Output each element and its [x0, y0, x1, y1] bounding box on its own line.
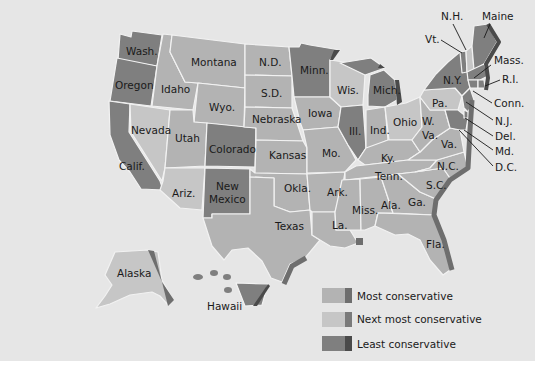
page-bottom-margin — [0, 361, 535, 376]
hawaii-islet-4 — [224, 287, 232, 293]
label-wva-1: W. — [422, 115, 435, 127]
label-maine: Maine — [482, 10, 514, 22]
hawaii-islet-2 — [210, 270, 218, 276]
label-iowa: Iowa — [308, 107, 333, 119]
label-ind: Ind. — [370, 124, 390, 136]
label-ala: Ala. — [381, 199, 401, 211]
label-sd: S.D. — [261, 87, 282, 99]
legend-swatch-least — [322, 336, 346, 351]
us-choropleth-map: Wash. Oregon Calif. Idaho Nevada Montana… — [0, 0, 535, 376]
label-pa: Pa. — [432, 97, 448, 109]
coast-shadow-miss — [356, 238, 363, 245]
label-utah: Utah — [175, 132, 200, 144]
label-vt: Vt. — [425, 33, 440, 45]
label-mo: Mo. — [322, 147, 341, 159]
label-conn: Conn. — [494, 97, 524, 109]
label-ky: Ky. — [381, 152, 395, 164]
label-new-mexico-1: New — [216, 180, 239, 192]
label-dc: D.C. — [495, 161, 517, 173]
label-del: Del. — [495, 130, 516, 142]
label-mich: Mich. — [373, 84, 401, 96]
label-wis: Wis. — [337, 84, 359, 96]
label-nebraska: Nebraska — [252, 113, 302, 125]
label-kansas: Kansas — [269, 149, 306, 161]
legend: Most conservative Next most conservative… — [322, 288, 482, 351]
label-miss: Miss. — [352, 204, 378, 216]
state-alaska — [96, 250, 172, 308]
label-nevada: Nevada — [131, 124, 171, 136]
label-ark: Ark. — [327, 186, 348, 198]
label-mass: Mass. — [494, 54, 524, 66]
label-colorado: Colorado — [209, 143, 256, 155]
label-calif: Calif. — [119, 160, 145, 172]
label-wva-2: Va. — [422, 129, 438, 141]
label-ill: Ill. — [349, 125, 361, 137]
state-ri — [478, 80, 485, 88]
legend-swatch-most-shadow — [345, 288, 352, 303]
label-tenn: Tenn. — [374, 170, 403, 182]
label-hawaii: Hawaii — [207, 300, 242, 312]
label-wyo: Wyo. — [209, 101, 235, 113]
label-ga: Ga. — [408, 196, 426, 208]
legend-swatch-least-shadow — [345, 336, 352, 351]
label-minn: Minn. — [300, 64, 329, 76]
label-ohio: Ohio — [393, 116, 417, 128]
label-nh: N.H. — [441, 10, 463, 22]
state-del — [464, 110, 468, 118]
label-montana: Montana — [191, 56, 237, 68]
label-oregon: Oregon — [115, 79, 154, 91]
state-conn — [468, 80, 478, 88]
label-sc: S.C. — [426, 179, 447, 191]
label-la: La. — [332, 219, 348, 231]
label-ariz: Ariz. — [172, 187, 195, 199]
legend-swatch-next-shadow — [345, 312, 352, 327]
label-texas: Texas — [274, 220, 304, 232]
label-nj: N.J. — [495, 115, 513, 127]
label-ri: R.I. — [502, 73, 519, 85]
leader-conn — [473, 91, 492, 103]
label-idaho: Idaho — [161, 83, 190, 95]
legend-label-next: Next most conservative — [357, 313, 482, 325]
hawaii-islet-1 — [193, 274, 203, 280]
leader-vt — [441, 40, 462, 53]
label-va: Va. — [441, 138, 457, 150]
label-new-mexico-2: Mexico — [209, 193, 246, 205]
legend-label-most: Most conservative — [357, 290, 453, 302]
leader-nh — [453, 24, 466, 50]
legend-swatch-most — [322, 288, 346, 303]
label-fla: Fla. — [426, 238, 445, 250]
label-wash: Wash. — [126, 45, 158, 57]
hawaii-islet-3 — [223, 274, 231, 280]
label-nd: N.D. — [259, 56, 282, 68]
legend-label-least: Least conservative — [357, 338, 456, 350]
label-okla: Okla. — [284, 182, 311, 194]
legend-swatch-next — [322, 312, 346, 327]
label-alaska: Alaska — [117, 267, 151, 279]
label-nc: N.C. — [437, 160, 459, 172]
label-md: Md. — [495, 145, 514, 157]
label-ny: N.Y. — [443, 74, 462, 86]
